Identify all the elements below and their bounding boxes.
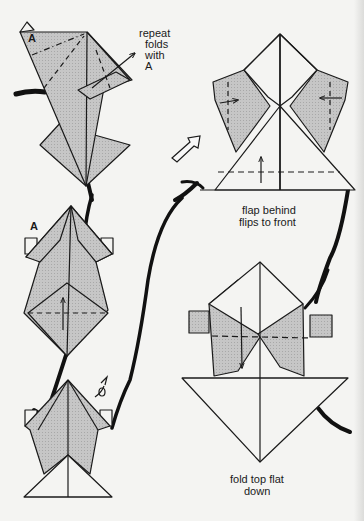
- step-5-caption: fold top flat down: [230, 473, 284, 497]
- hollow-arrow-icon: [172, 136, 200, 162]
- svg-text:A: A: [145, 60, 153, 72]
- step-3-figure: [24, 380, 112, 497]
- step-4-figure: [200, 34, 355, 190]
- svg-text:flap behind: flap behind: [242, 204, 296, 216]
- turn-over-arrow-icon: [95, 377, 107, 397]
- svg-text:fold top flat: fold top flat: [230, 473, 284, 485]
- origami-diagram-page: A repeat folds with A A: [0, 0, 364, 521]
- step-4-caption: flap behind flips to front: [239, 204, 296, 228]
- svg-text:down: down: [244, 485, 270, 497]
- diagram-canvas: A repeat folds with A A: [0, 0, 364, 521]
- step-1-label-a: A: [28, 32, 36, 44]
- step-5-figure: [182, 262, 348, 462]
- step-2-label-a: A: [30, 220, 38, 232]
- step-1-caption: repeat folds with A: [139, 27, 170, 72]
- step-1-figure: [20, 22, 135, 186]
- svg-text:flips to front: flips to front: [239, 216, 296, 228]
- page-edge-shadow: [354, 0, 364, 521]
